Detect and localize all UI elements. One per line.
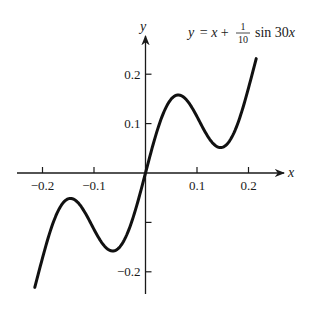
x-axis-label: x bbox=[287, 165, 295, 180]
chart: −0.2−0.10.10.2 −0.20.10.2 x y y = x + 1 … bbox=[0, 0, 313, 310]
chart-title: y = x + 1 10 sin 30x bbox=[186, 21, 296, 45]
y-tick-label: −0.2 bbox=[117, 264, 141, 279]
x-tick-label: −0.2 bbox=[31, 178, 55, 193]
x-tick-label: −0.1 bbox=[82, 178, 106, 193]
svg-text:10: 10 bbox=[238, 34, 248, 45]
svg-text:sin 30x: sin 30x bbox=[255, 25, 296, 40]
y-tick-label: 0.1 bbox=[124, 116, 140, 131]
x-tick-label: 0.2 bbox=[240, 178, 256, 193]
y-axis-label: y bbox=[138, 19, 147, 34]
x-tick-label: 0.1 bbox=[189, 178, 205, 193]
svg-text:y = x +: y = x + bbox=[186, 25, 229, 40]
y-tick-label: 0.2 bbox=[124, 67, 140, 82]
svg-text:1: 1 bbox=[241, 21, 246, 32]
